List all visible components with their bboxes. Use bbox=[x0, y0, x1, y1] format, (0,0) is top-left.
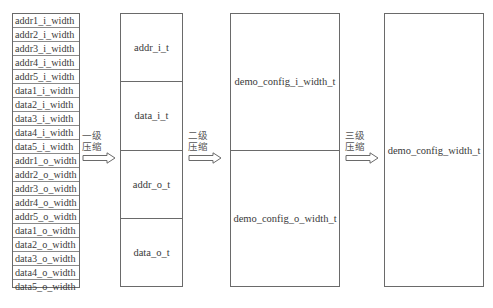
level3-compression-arrow: 三级 压缩 bbox=[345, 130, 383, 164]
level1-types-box: addr_i_t data_i_t addr_o_t data_o_t bbox=[120, 13, 183, 287]
list-item: data2_i_width bbox=[13, 98, 79, 112]
arrow-label-line2: 压缩 bbox=[345, 141, 365, 152]
type-cell: demo_config_o_width_t bbox=[231, 151, 339, 287]
list-item: data5_o_width bbox=[13, 280, 79, 293]
list-item: addr2_i_width bbox=[13, 28, 79, 42]
arrow-label-line1: 三级 bbox=[345, 130, 365, 141]
arrow-label-line2: 压缩 bbox=[188, 141, 208, 152]
hollow-right-arrow-icon bbox=[188, 152, 222, 164]
type-cell: data_i_t bbox=[121, 82, 182, 150]
list-item: addr3_i_width bbox=[13, 42, 79, 56]
list-item: data1_o_width bbox=[13, 224, 79, 238]
hollow-right-arrow-icon bbox=[345, 152, 379, 164]
level3-types-box: demo_config_width_t bbox=[384, 13, 484, 287]
list-item: data3_o_width bbox=[13, 252, 79, 266]
list-item: addr5_i_width bbox=[13, 70, 79, 84]
type-cell: demo_config_width_t bbox=[385, 14, 483, 286]
list-item: data3_i_width bbox=[13, 112, 79, 126]
list-item: addr1_o_width bbox=[13, 154, 79, 168]
list-item: addr4_i_width bbox=[13, 56, 79, 70]
level2-types-box: demo_config_i_width_t demo_config_o_widt… bbox=[230, 13, 340, 287]
level1-compression-arrow: 一级 压缩 bbox=[82, 130, 120, 164]
list-item: data2_o_width bbox=[13, 238, 79, 252]
list-item: addr5_o_width bbox=[13, 210, 79, 224]
list-item: addr4_o_width bbox=[13, 196, 79, 210]
arrow-label-line1: 二级 bbox=[188, 130, 208, 141]
arrow-label-line1: 一级 bbox=[82, 130, 102, 141]
hollow-right-arrow-icon bbox=[82, 152, 116, 164]
input-width-list: addr1_i_width addr2_i_width addr3_i_widt… bbox=[12, 13, 80, 288]
list-item: data4_i_width bbox=[13, 126, 79, 140]
level2-compression-arrow: 二级 压缩 bbox=[188, 130, 226, 164]
list-item: addr3_o_width bbox=[13, 182, 79, 196]
list-item: data4_o_width bbox=[13, 266, 79, 280]
type-cell: demo_config_i_width_t bbox=[231, 14, 339, 151]
type-cell: addr_i_t bbox=[121, 14, 182, 82]
type-cell: data_o_t bbox=[121, 219, 182, 286]
type-cell: addr_o_t bbox=[121, 151, 182, 219]
list-item: addr1_i_width bbox=[13, 14, 79, 28]
arrow-label-line2: 压缩 bbox=[82, 141, 102, 152]
list-item: data5_i_width bbox=[13, 140, 79, 154]
list-item: addr2_o_width bbox=[13, 168, 79, 182]
list-item: data1_i_width bbox=[13, 84, 79, 98]
